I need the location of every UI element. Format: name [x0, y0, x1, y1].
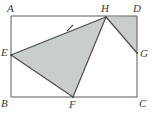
figure-canvas	[0, 0, 152, 121]
shaded-triangle-ehf	[11, 17, 106, 97]
vertex-label-d: D	[133, 3, 141, 14]
vertex-label-f: F	[69, 99, 76, 110]
vertex-dot-g	[136, 52, 138, 54]
geometry-figure: A H D E G B F C	[0, 0, 152, 121]
vertex-dot-e	[10, 54, 12, 56]
vertex-label-a: A	[7, 3, 14, 14]
vertex-label-h: H	[101, 3, 109, 14]
vertex-label-e: E	[1, 47, 8, 58]
vertex-label-c: C	[139, 98, 146, 109]
vertex-dot-h	[105, 16, 107, 18]
vertex-label-b: B	[1, 98, 8, 109]
vertex-label-g: G	[140, 48, 148, 59]
